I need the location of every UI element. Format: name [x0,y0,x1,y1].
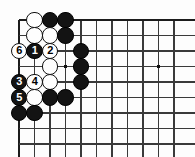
numbered-stone-white: 2 [42,43,58,59]
numbered-stone-black: 5 [11,89,27,105]
stone-move-number: 1 [32,45,38,56]
stone-black [57,89,73,105]
go-board-diagram: 612345 [0,0,195,157]
stone-black [57,12,73,28]
stone-white [42,74,58,90]
stone-move-number: 6 [16,45,22,56]
numbered-stone-white: 4 [26,74,42,90]
stone-move-number: 4 [32,76,38,87]
numbered-stone-black: 1 [26,43,42,59]
stone-black [73,74,89,90]
stone-white [42,58,58,74]
stone-move-number: 2 [47,45,53,56]
numbered-stone-black: 3 [11,74,27,90]
stone-black [73,58,89,74]
stone-black [11,105,27,121]
stone-white [42,27,58,43]
numbered-stone-white: 6 [11,43,27,59]
stone-move-number: 3 [16,76,22,87]
stone-black [57,27,73,43]
stone-black [42,12,58,28]
stone-white [26,89,42,105]
stone-white [26,12,42,28]
stone-black [26,105,42,121]
stone-white [26,27,42,43]
stone-black [73,43,89,59]
stone-layer: 612345 [0,0,195,157]
stone-black [42,89,58,105]
stone-move-number: 5 [16,91,22,102]
